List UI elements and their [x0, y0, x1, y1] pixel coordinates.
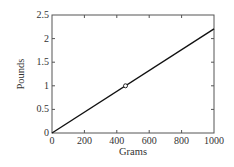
x-axis-label: Grams [119, 146, 147, 157]
svg-text:400: 400 [109, 135, 124, 146]
y-tick-labels: 0 0.5 1 1.5 2 2.5 [37, 9, 50, 138]
chart: 0 200 400 600 800 1000 0 0.5 1 1.5 2 2.5… [0, 0, 234, 167]
svg-text:0: 0 [44, 127, 49, 138]
data-line [52, 29, 214, 133]
svg-text:1000: 1000 [204, 135, 224, 146]
svg-text:2.5: 2.5 [37, 9, 50, 20]
svg-text:200: 200 [77, 135, 92, 146]
x-ticks [84, 15, 181, 133]
y-ticks [52, 39, 214, 110]
svg-text:1: 1 [44, 80, 49, 91]
svg-text:1.5: 1.5 [37, 56, 50, 67]
svg-text:0: 0 [50, 135, 55, 146]
svg-text:2: 2 [44, 33, 49, 44]
plot-frame [52, 15, 214, 133]
data-point-marker [124, 84, 128, 88]
y-axis-label: Pounds [15, 59, 26, 90]
svg-text:600: 600 [142, 135, 157, 146]
svg-text:800: 800 [174, 135, 189, 146]
svg-text:0.5: 0.5 [37, 103, 50, 114]
x-tick-labels: 0 200 400 600 800 1000 [50, 135, 225, 146]
